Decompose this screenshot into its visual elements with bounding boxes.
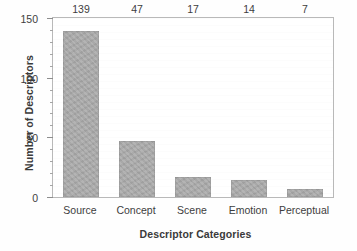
x-axis-tick-label-emotion: Emotion (229, 204, 268, 216)
y-axis-major-tick: 150 (47, 18, 53, 19)
y-axis-title: Number of Descriptors (23, 23, 35, 203)
bar-concept[interactable]: 47 (119, 18, 156, 197)
y-axis-minor-tick (50, 149, 54, 150)
bar-rect: 17 (175, 177, 212, 197)
x-axis-tick-label-perceptual: Perceptual (279, 204, 329, 216)
y-axis-major-tick: 50 (47, 137, 53, 138)
y-axis-minor-tick (50, 173, 54, 174)
bar-chart-figure: Number of Descriptors 050100150 13947171… (0, 0, 357, 251)
y-axis-tick-label: 50 (26, 132, 38, 144)
bar-rect: 47 (119, 141, 156, 197)
y-axis-major-tick: 100 (47, 78, 53, 79)
bar-rect: 14 (231, 180, 268, 197)
bar-value-label: 7 (302, 3, 308, 15)
y-axis-minor-tick (50, 102, 54, 103)
x-axis-tick-label-source: Source (63, 204, 96, 216)
bar-emotion[interactable]: 14 (231, 18, 268, 197)
plot-area: 050100150 1394717147 (52, 17, 334, 198)
y-axis-minor-tick (50, 54, 54, 55)
bar-rect: 7 (287, 189, 324, 197)
bar-value-label: 139 (72, 3, 90, 15)
bar-scene[interactable]: 17 (175, 18, 212, 197)
y-axis-tick-label: 150 (20, 13, 38, 25)
y-axis-tick-label: 100 (20, 73, 38, 85)
y-axis-minor-tick (50, 90, 54, 91)
bar-source[interactable]: 139 (63, 18, 100, 197)
y-axis-minor-tick (50, 161, 54, 162)
y-axis-minor-tick (50, 66, 54, 67)
y-axis-minor-tick (50, 125, 54, 126)
y-axis-minor-tick (50, 42, 54, 43)
x-axis-tick-label-scene: Scene (177, 204, 207, 216)
y-axis-minor-tick (50, 30, 54, 31)
bar-rect: 139 (63, 31, 100, 197)
y-axis-minor-tick (50, 113, 54, 114)
bar-value-label: 47 (131, 3, 143, 15)
x-axis-tick-label-concept: Concept (116, 204, 155, 216)
x-axis-title: Descriptor Categories (48, 228, 343, 240)
y-axis-tick-label: 0 (32, 192, 38, 204)
y-axis-major-tick: 0 (47, 197, 53, 198)
bar-value-label: 17 (187, 3, 199, 15)
y-axis-minor-tick (50, 185, 54, 186)
bar-value-label: 14 (243, 3, 255, 15)
bar-perceptual[interactable]: 7 (287, 18, 324, 197)
